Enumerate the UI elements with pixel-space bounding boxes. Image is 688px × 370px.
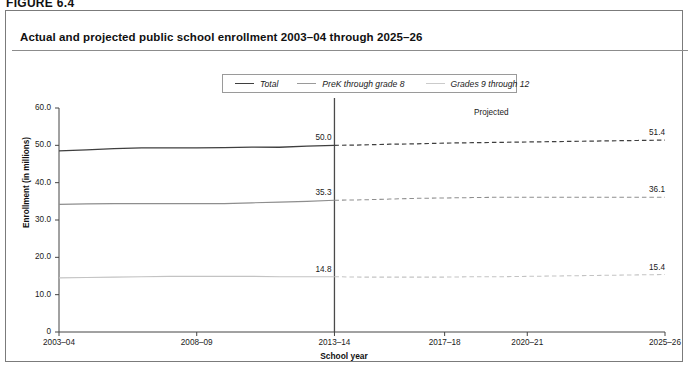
series-label-split-2: 14.8 (297, 265, 331, 274)
projected-annotation: Projected (474, 108, 509, 117)
series-label-end-0: 51.4 (635, 128, 665, 137)
x-axis-title: School year (0, 351, 688, 361)
x-tick-label: 2013–14 (304, 338, 364, 347)
series-line-projected-2 (334, 275, 665, 278)
y-tick-label: 60.0 (17, 103, 51, 112)
x-tick-label: 2008–09 (167, 338, 227, 347)
y-tick-label: 50.0 (17, 140, 51, 149)
series-line-actual-2 (59, 276, 334, 277)
series-line-actual-0 (59, 145, 334, 151)
chart-plot-area (0, 0, 688, 370)
x-tick-label: 2003–04 (29, 338, 89, 347)
chart-canvas (0, 0, 688, 370)
series-label-split-1: 35.3 (297, 188, 331, 197)
y-tick-label: 40.0 (17, 178, 51, 187)
y-tick-label: 0 (17, 327, 51, 336)
y-tick-label: 30.0 (17, 215, 51, 224)
series-label-end-1: 36.1 (635, 185, 665, 194)
y-tick-label: 10.0 (17, 290, 51, 299)
x-tick-label: 2020–21 (497, 338, 557, 347)
series-label-end-2: 15.4 (635, 263, 665, 272)
y-tick-label: 20.0 (17, 252, 51, 261)
series-label-split-0: 50.0 (297, 133, 331, 142)
series-line-projected-1 (334, 197, 665, 200)
x-tick-label: 2025–26 (635, 338, 688, 347)
series-line-projected-0 (334, 140, 665, 145)
series-line-actual-1 (59, 200, 334, 204)
x-tick-label: 2017–18 (415, 338, 475, 347)
